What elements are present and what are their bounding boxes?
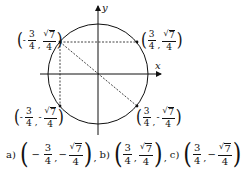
answer-a: a) ( − 3 4 , − √7 4 ) ,: [6, 141, 100, 167]
close-paren: ): [177, 31, 183, 50]
numerator: 3: [44, 143, 52, 155]
answer-b: b) ( 3 4 , √7 4 ) ,: [100, 141, 170, 167]
fraction: √7 4: [218, 141, 232, 167]
comma: ,: [153, 118, 156, 129]
answers-row: a) ( − 3 4 , − √7 4 ) , b) ( 3 4 , √7 4 …: [6, 141, 241, 167]
fraction: √7 4: [44, 106, 57, 129]
sqrt: √7: [44, 30, 55, 40]
fraction: 3 4: [28, 30, 36, 51]
sqrt: √7: [70, 143, 82, 154]
numerator: 3: [28, 30, 36, 41]
comma: ,: [134, 152, 137, 167]
comma: ,: [38, 41, 41, 52]
sqrt: √7: [140, 143, 152, 154]
radicand: 7: [168, 107, 174, 117]
sign: −: [207, 149, 215, 160]
numerator: 3: [143, 107, 151, 118]
answer-tag: c): [170, 149, 180, 160]
open-paren: (: [20, 140, 29, 169]
close-paren: ): [154, 140, 163, 169]
sqrt: √7: [163, 107, 174, 117]
radicand: 7: [75, 143, 82, 154]
radicand: 7: [224, 143, 231, 154]
fraction: 3 4: [123, 143, 131, 166]
close-paren: ): [84, 140, 93, 169]
sign: -: [156, 113, 159, 122]
fraction: 3 4: [44, 143, 52, 166]
fraction: √7 4: [162, 29, 175, 52]
denominator: 4: [165, 119, 171, 129]
open-paren: (: [17, 31, 23, 50]
denominator: 4: [47, 119, 53, 129]
numerator: 3: [25, 107, 33, 118]
sign: -: [23, 36, 26, 45]
label-lower-right: ( 3 4 , - √7 4 ): [136, 106, 182, 129]
sqrt: √7: [45, 107, 56, 117]
open-paren: (: [14, 108, 20, 127]
fraction: 3 4: [25, 107, 33, 128]
fraction: 3 4: [148, 30, 156, 51]
label-upper-left: ( - 3 4 , √7 4 ): [17, 29, 63, 52]
denominator: 4: [46, 42, 52, 52]
denominator: 4: [124, 155, 130, 166]
answer-c: c) ( 3 4 , − √7 4 ): [170, 141, 242, 167]
sign: -: [39, 113, 42, 122]
radicand: 7: [50, 107, 56, 117]
close-paren: ): [233, 140, 242, 169]
close-paren: ): [57, 31, 63, 50]
comma: ,: [35, 118, 38, 129]
fraction: √7 4: [69, 141, 83, 167]
fraction: 3 4: [193, 143, 201, 166]
open-paren: (: [114, 140, 123, 169]
radicand: 7: [169, 30, 175, 40]
denominator: 4: [26, 118, 32, 128]
sign: −: [58, 149, 66, 160]
numerator: 3: [193, 143, 201, 155]
answer-tag: b): [100, 149, 110, 160]
denominator: 4: [194, 155, 200, 166]
sign: -: [20, 113, 23, 122]
sqrt: √7: [219, 143, 231, 154]
open-paren: (: [141, 31, 147, 50]
radicand: 7: [49, 30, 55, 40]
open-paren: (: [183, 140, 192, 169]
denominator: 4: [73, 156, 79, 167]
denominator: 4: [45, 155, 51, 166]
fraction: √7 4: [139, 141, 153, 167]
sign: −: [31, 149, 39, 160]
comma: ,: [158, 41, 161, 52]
sqrt: √7: [163, 30, 174, 40]
radicand: 7: [145, 143, 152, 154]
separator: ,: [93, 152, 96, 167]
open-paren: (: [136, 108, 142, 127]
point-upper-right: [136, 41, 139, 44]
denominator: 4: [166, 42, 172, 52]
denominator: 4: [29, 41, 35, 51]
close-paren: ): [58, 108, 64, 127]
comma: ,: [54, 152, 57, 167]
denominator: 4: [222, 156, 228, 167]
comma: ,: [203, 152, 206, 167]
denominator: 4: [149, 41, 155, 51]
denominator: 4: [143, 156, 149, 167]
y-axis-label: y: [102, 2, 108, 13]
separator: ,: [164, 152, 167, 167]
numerator: 3: [148, 30, 156, 41]
close-paren: ): [176, 108, 182, 127]
fraction: 3 4: [143, 107, 151, 128]
x-axis-label: x: [155, 60, 161, 71]
numerator: 3: [123, 143, 131, 155]
label-lower-left: ( - 3 4 , - √7 4 ): [14, 106, 64, 129]
denominator: 4: [144, 118, 150, 128]
label-upper-right: ( 3 4 , √7 4 ): [141, 29, 183, 52]
answer-tag: a): [6, 149, 16, 160]
fraction: √7 4: [162, 106, 175, 129]
fraction: √7 4: [43, 29, 56, 52]
